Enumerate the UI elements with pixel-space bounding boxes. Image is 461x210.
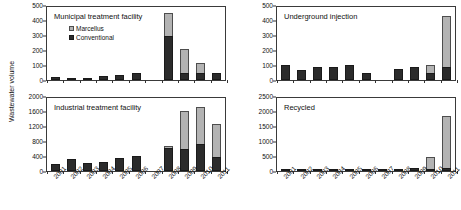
stacked-bar[interactable] [297, 70, 306, 81]
bar-segment-conventional [196, 73, 205, 81]
stacked-bar[interactable] [196, 107, 205, 172]
stacked-bar[interactable] [180, 111, 189, 171]
bar-slot [79, 7, 95, 80]
y-tick-label: 200 [262, 48, 273, 55]
bar-slot [277, 98, 293, 171]
bar-slot [439, 7, 455, 80]
bar-segment-marcellus [212, 124, 221, 157]
bar-slot [358, 98, 374, 171]
bar-segment-conventional [394, 69, 403, 80]
bar-group [47, 98, 225, 171]
bar-segment-conventional [281, 65, 290, 80]
stacked-bar[interactable] [442, 16, 451, 81]
x-tick-mark [47, 80, 48, 83]
x-tick-mark [342, 80, 343, 83]
stacked-bar[interactable] [345, 65, 354, 80]
x-tick-mark [392, 80, 393, 83]
x-tick-mark [63, 80, 64, 83]
y-tick-label: 2000 [259, 109, 273, 116]
x-tick-mark [178, 80, 179, 83]
bar-slot [128, 98, 144, 171]
stacked-bar[interactable] [426, 65, 435, 80]
y-tick-label: 500 [262, 3, 273, 10]
bar-slot [277, 7, 293, 80]
bar-slot [209, 7, 225, 80]
x-tick-mark [457, 80, 458, 83]
y-tick-label: 500 [262, 154, 273, 161]
bar-segment-conventional [180, 73, 189, 81]
y-tick-label: 300 [32, 33, 43, 40]
bar-slot [193, 98, 209, 171]
bar-segment-marcellus [196, 63, 205, 73]
bar-slot [358, 7, 374, 80]
bar-slot [309, 98, 325, 171]
stacked-bar[interactable] [132, 73, 141, 81]
x-axis-ticks [277, 80, 455, 86]
panel-recycled: 05001000150020002500Recycled200120022003… [254, 97, 456, 172]
stacked-bar[interactable] [362, 73, 371, 81]
stacked-bar[interactable] [180, 49, 189, 80]
bar-slot [326, 7, 342, 80]
stacked-bar[interactable] [281, 65, 290, 80]
bar-slot [112, 98, 128, 171]
bar-segment-marcellus [442, 116, 451, 167]
bar-segment-marcellus [426, 65, 435, 73]
bar-segment-marcellus [180, 111, 189, 149]
y-axis-top-left: 0100200300400500 [24, 6, 46, 81]
stacked-bar[interactable] [164, 146, 173, 172]
bar-slot [407, 7, 423, 80]
bar-slot [342, 7, 358, 80]
wastewater-disposal-figure: Wastewater volume 0100200300400500Munici… [0, 0, 461, 210]
panel-underground-injection: 0100200300400500Underground injection [254, 6, 456, 81]
bar-slot [63, 98, 79, 171]
bar-segment-conventional [196, 144, 205, 171]
x-axis-ticks [47, 80, 225, 86]
bar-group [277, 98, 455, 171]
y-tick-label: 1200 [29, 124, 43, 131]
bar-slot [374, 7, 390, 80]
x-tick-mark [194, 80, 195, 83]
bar-slot [390, 98, 406, 171]
x-tick-mark [129, 80, 130, 83]
stacked-bar[interactable] [329, 67, 338, 81]
bar-slot [293, 98, 309, 171]
stacked-bar[interactable] [410, 67, 419, 81]
stacked-bar[interactable] [212, 124, 221, 171]
bar-slot [160, 7, 176, 80]
y-tick-label: 1600 [29, 109, 43, 116]
y-tick-label: 500 [32, 3, 43, 10]
stacked-bar[interactable] [313, 67, 322, 81]
bar-segment-conventional [164, 148, 173, 171]
stacked-bar[interactable] [164, 13, 173, 80]
x-tick-mark [145, 80, 146, 83]
bar-slot [144, 98, 160, 171]
y-tick-label: 400 [262, 18, 273, 25]
y-tick-label: 2000 [29, 94, 43, 101]
x-tick-mark [80, 80, 81, 83]
bar-slot [193, 7, 209, 80]
y-tick-label: 400 [32, 18, 43, 25]
bar-slot [160, 98, 176, 171]
stacked-bar[interactable] [394, 69, 403, 80]
stacked-bar[interactable] [212, 73, 221, 81]
y-axis-top-right: 0100200300400500 [254, 6, 276, 81]
bar-segment-conventional [442, 67, 451, 80]
panel-municipal-treatment-facility: 0100200300400500Municipal treatment faci… [24, 6, 226, 81]
plot-area-top-right: Underground injection [276, 6, 456, 81]
y-tick-label: 300 [262, 33, 273, 40]
stacked-bar[interactable] [196, 63, 205, 80]
y-tick-label: 2500 [259, 94, 273, 101]
bar-slot [112, 7, 128, 80]
bar-slot [407, 98, 423, 171]
x-tick-mark [211, 80, 212, 83]
bar-slot [423, 98, 439, 171]
bar-slot [63, 7, 79, 80]
bar-slot [342, 98, 358, 171]
x-tick-mark [277, 80, 278, 83]
bar-slot [209, 98, 225, 171]
bar-segment-conventional [329, 67, 338, 81]
stacked-bar[interactable] [442, 116, 451, 171]
figure-y-axis-label: Wastewater volume [8, 52, 15, 132]
bar-segment-conventional [313, 67, 322, 81]
bar-slot [293, 7, 309, 80]
